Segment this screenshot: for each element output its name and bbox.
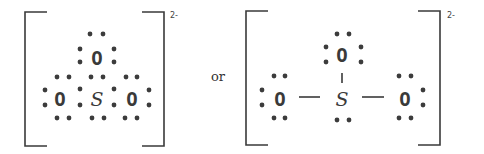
lone-electron-dot: [78, 103, 83, 108]
lone-electron-dot: [335, 32, 340, 37]
lone-electron-dot: [102, 116, 107, 121]
lone-electron-dot: [112, 60, 117, 65]
atom-sulfur: S: [90, 88, 103, 110]
lone-electron-dot: [359, 60, 364, 65]
lone-electron-dot: [88, 32, 93, 37]
lone-electron-dot: [101, 75, 106, 80]
left-bracket: [25, 12, 47, 146]
lone-electron-dot: [347, 32, 352, 37]
lone-electron-dot: [55, 116, 60, 121]
lone-electron-dot: [324, 60, 329, 65]
structures-group: 2-OOSO2-OOSO: [25, 11, 455, 146]
lone-electron-dot: [283, 74, 288, 79]
lone-electron-dot: [112, 103, 117, 108]
ion-charge: 2-: [170, 11, 178, 20]
line-structure: 2-OOSO: [246, 11, 455, 145]
left-bracket: [246, 11, 268, 145]
lone-electron-dot: [272, 74, 277, 79]
lone-electron-dot: [397, 74, 402, 79]
lone-electron-dot: [55, 75, 60, 80]
lone-electron-dot: [335, 118, 340, 123]
lone-electron-dot: [135, 75, 140, 80]
lone-electron-dot: [89, 75, 94, 80]
lone-electron-dot: [409, 74, 414, 79]
atom-right-oxygen: O: [126, 88, 137, 110]
right-bracket: [418, 11, 440, 145]
lone-electron-dot: [147, 88, 152, 93]
lone-electron-dot: [43, 103, 48, 108]
right-bracket: [142, 12, 164, 146]
lone-electron-dot: [147, 103, 152, 108]
lone-electron-dot: [260, 88, 265, 93]
lone-electron-dot: [78, 47, 83, 52]
lone-electron-dot: [359, 45, 364, 50]
lone-electron-dot: [112, 47, 117, 52]
lone-electron-dot: [112, 87, 117, 92]
lone-electron-dot: [78, 60, 83, 65]
sulfite-lewis-diagram: 2-OOSO2-OOSO or: [0, 0, 484, 154]
lone-electron-dot: [397, 116, 402, 121]
atom-top-oxygen: O: [91, 47, 102, 69]
atom-sulfur: S: [335, 88, 348, 110]
lone-electron-dot: [421, 88, 426, 93]
lone-electron-dot: [78, 87, 83, 92]
dot-structure: 2-OOSO: [25, 11, 178, 146]
lone-electron-dot: [135, 116, 140, 121]
lone-electron-dot: [43, 88, 48, 93]
lone-electron-dot: [90, 116, 95, 121]
atom-right-oxygen: O: [399, 88, 410, 110]
lone-electron-dot: [123, 116, 128, 121]
ion-charge: 2-: [447, 11, 455, 20]
lone-electron-dot: [347, 118, 352, 123]
lone-electron-dot: [124, 75, 129, 80]
atom-left-oxygen: O: [274, 88, 285, 110]
lone-electron-dot: [421, 103, 426, 108]
lone-electron-dot: [67, 75, 72, 80]
lone-electron-dot: [409, 116, 414, 121]
lone-electron-dot: [272, 116, 277, 121]
lone-electron-dot: [101, 32, 106, 37]
lone-electron-dot: [324, 45, 329, 50]
or-connector-label: or: [211, 69, 226, 84]
lone-electron-dot: [283, 116, 288, 121]
lone-electron-dot: [260, 103, 265, 108]
atom-top-oxygen: O: [336, 44, 347, 66]
atom-left-oxygen: O: [54, 88, 65, 110]
lone-electron-dot: [67, 116, 72, 121]
